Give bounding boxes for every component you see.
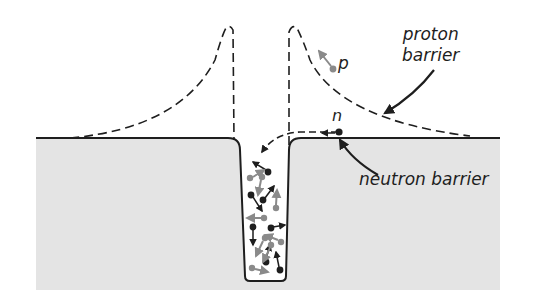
proton-arrow	[319, 51, 331, 66]
outgoing-proton	[330, 66, 337, 73]
proton-barrier-label: proton barrier	[402, 24, 459, 66]
incoming-neutron	[335, 128, 342, 135]
proton-barrier-label-line1: proton	[402, 24, 459, 45]
neutron-barrier-label: neutron barrier	[359, 171, 489, 188]
proton-barrier-leader	[385, 70, 434, 113]
proton-particle-label: p	[338, 55, 349, 72]
neutron-particle-label: n	[332, 108, 342, 124]
proton-barrier-label-line2: barrier	[402, 45, 459, 66]
proton-barrier-curve	[70, 26, 234, 140]
